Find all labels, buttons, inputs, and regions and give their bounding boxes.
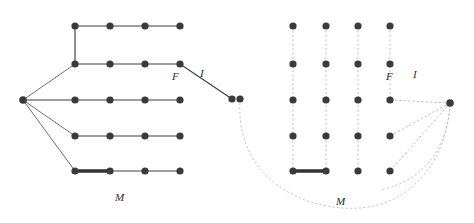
node-r4c1 xyxy=(71,132,78,139)
node-right-r4c4 xyxy=(386,132,393,139)
node-r3c4 xyxy=(176,96,183,103)
node-right-r3c4 xyxy=(386,96,393,103)
node-right-r5c1 xyxy=(289,167,296,174)
dashed-hub-to-c4r5 xyxy=(390,103,450,171)
left-row-edges xyxy=(75,26,180,171)
node-detached-2 xyxy=(236,95,243,102)
edge-hub-to-row4 xyxy=(23,100,75,136)
node-r4c2 xyxy=(106,132,113,139)
edge-hub-to-row5 xyxy=(23,100,75,171)
node-right-r3c1 xyxy=(289,96,296,103)
dashed-hub-to-c4r3 xyxy=(390,100,450,103)
right-label-I: I xyxy=(412,68,418,80)
graph-figure: F I M xyxy=(0,0,474,223)
edge-diagonal-to-detached xyxy=(180,64,232,99)
node-detached-1 xyxy=(228,95,235,102)
node-right-r4c3 xyxy=(354,132,361,139)
node-right-r5c4 xyxy=(386,167,393,174)
node-right-r4c1 xyxy=(289,132,296,139)
node-right-r2c4 xyxy=(386,60,393,67)
right-nodes xyxy=(289,22,453,174)
dashed-hub-to-c4r4 xyxy=(390,103,450,136)
right-hub-edges xyxy=(390,100,450,171)
node-r1c2 xyxy=(106,22,113,29)
node-r5c4 xyxy=(176,167,183,174)
node-r2c1 xyxy=(71,60,78,67)
node-r3c1 xyxy=(71,96,78,103)
dashed-curve-left-to-hub xyxy=(240,103,450,208)
node-r3c3 xyxy=(141,96,148,103)
node-r4c4 xyxy=(176,132,183,139)
node-hub-right xyxy=(446,99,454,107)
node-right-r2c2 xyxy=(322,60,329,67)
right-label-M: M xyxy=(335,195,346,207)
node-right-r3c2 xyxy=(322,96,329,103)
left-label-F: F xyxy=(171,70,179,82)
node-r4c3 xyxy=(141,132,148,139)
node-right-r1c2 xyxy=(322,22,329,29)
left-nodes xyxy=(19,22,243,174)
dashed-curve-inner xyxy=(380,105,450,190)
left-graph-panel: F I M xyxy=(19,22,243,203)
node-right-r5c2 xyxy=(322,167,329,174)
node-right-r1c4 xyxy=(386,22,393,29)
edge-hub-to-row2 xyxy=(23,64,75,100)
node-r1c1 xyxy=(71,22,78,29)
right-dashed-columns xyxy=(293,26,390,171)
node-right-r1c3 xyxy=(354,22,361,29)
right-graph-panel: F I M xyxy=(240,22,454,208)
node-hub-left xyxy=(19,96,27,104)
node-r5c3 xyxy=(141,167,148,174)
node-right-r2c3 xyxy=(354,60,361,67)
node-r3c2 xyxy=(106,96,113,103)
node-right-r3c3 xyxy=(354,96,361,103)
node-r5c1 xyxy=(71,167,78,174)
node-r1c3 xyxy=(141,22,148,29)
node-right-r2c1 xyxy=(289,60,296,67)
node-r2c3 xyxy=(141,60,148,67)
left-label-I: I xyxy=(199,67,205,79)
right-label-F: F xyxy=(385,70,393,82)
node-right-r5c3 xyxy=(354,167,361,174)
node-right-r1c1 xyxy=(289,22,296,29)
node-r2c2 xyxy=(106,60,113,67)
node-right-r4c2 xyxy=(322,132,329,139)
left-hub-edges xyxy=(23,64,75,171)
node-r2c4 xyxy=(176,60,183,67)
left-label-M: M xyxy=(114,191,125,203)
node-r1c4 xyxy=(176,22,183,29)
node-r5c2 xyxy=(106,167,113,174)
